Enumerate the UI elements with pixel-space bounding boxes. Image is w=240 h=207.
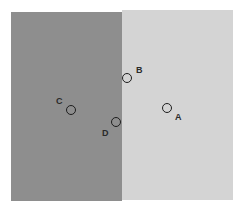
point-label-a: A (175, 113, 182, 122)
point-marker-d (111, 117, 121, 127)
point-label-c: C (56, 97, 63, 106)
point-label-d: D (102, 129, 109, 138)
point-label-b: B (136, 66, 143, 75)
point-marker-c (66, 105, 76, 115)
point-marker-a (162, 103, 172, 113)
point-marker-b (122, 73, 132, 83)
right-region (122, 10, 233, 200)
